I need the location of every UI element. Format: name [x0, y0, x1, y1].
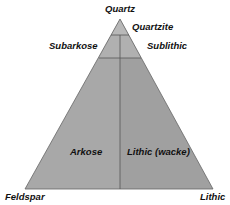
region-label-sublithic: Sublithic — [147, 40, 187, 51]
region-label-subarkose: Subarkose — [49, 40, 98, 51]
vertex-label-feldspar: Feldspar — [5, 191, 45, 202]
region-label-lithic-wacke: Lithic (wacke) — [127, 146, 190, 157]
region-label-quartzite: Quartzite — [132, 21, 173, 32]
ternary-triangle — [0, 0, 230, 205]
vertex-label-quartz: Quartz — [105, 3, 135, 14]
quartzite-region — [111, 19, 129, 35]
vertex-label-lithic: Lithic — [200, 191, 225, 202]
region-label-arkose: Arkose — [70, 146, 102, 157]
